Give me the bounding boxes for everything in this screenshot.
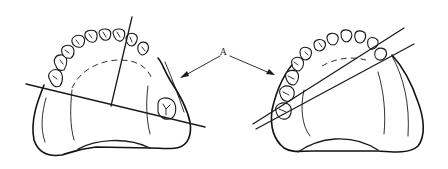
label-a: A [219,47,227,57]
left-survey-line-diagonal [26,84,205,127]
right-arch [253,28,423,152]
right-palate-line-2 [378,72,385,134]
arrow-right-shaft [230,56,272,74]
left-teeth [49,29,176,119]
right-palate-line-3 [392,56,408,136]
left-arch [26,17,205,155]
left-palate-line-1 [42,98,46,142]
arrow-left-head [180,71,189,78]
right-base-curve [298,139,378,152]
right-palate-dash [322,58,366,66]
left-palate-line-2 [71,90,74,140]
label-a-group: A [180,47,275,78]
dental-arch-figure: A [0,0,448,169]
left-palate-dash [72,60,152,88]
left-palate-line-3 [147,86,150,134]
right-palate-line-1 [302,90,310,136]
arrow-right-head [266,69,275,75]
